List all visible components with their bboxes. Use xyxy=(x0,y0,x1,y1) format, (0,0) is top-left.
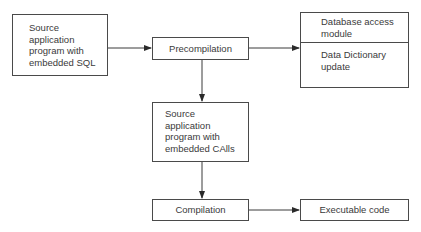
section-data-dictionary-update: Data Dictionary update xyxy=(301,43,408,72)
node-source-sql-line-1: Source xyxy=(29,22,107,34)
node-source-calls-line-1: Source xyxy=(165,108,248,120)
node-precompilation-label: Precompilation xyxy=(169,43,232,55)
db-access-line-2: module xyxy=(321,28,408,40)
node-source-sql-line-3: program with xyxy=(29,45,107,57)
node-compilation-label: Compilation xyxy=(175,204,225,216)
node-outputs: Database access module Data Dictionary u… xyxy=(300,12,409,88)
db-access-line-1: Database access xyxy=(321,16,408,28)
node-source-sql-line-2: application xyxy=(29,34,107,46)
node-source-calls-line-2: application xyxy=(165,120,248,132)
dd-update-line-2: update xyxy=(321,61,408,73)
node-compilation: Compilation xyxy=(152,199,249,221)
node-executable-code-label: Executable code xyxy=(319,204,389,216)
node-precompilation: Precompilation xyxy=(152,37,249,60)
node-source-sql: Source application program with embedded… xyxy=(12,14,108,76)
node-source-sql-line-4: embedded SQL xyxy=(29,57,107,69)
node-source-calls-line-4: embedded CAlls xyxy=(165,143,248,155)
node-source-calls-line-3: program with xyxy=(165,131,248,143)
node-source-calls: Source application program with embedded… xyxy=(152,102,249,162)
dd-update-line-1: Data Dictionary xyxy=(321,49,408,61)
section-database-access-module: Database access module xyxy=(301,13,408,43)
node-executable-code: Executable code xyxy=(300,199,409,221)
